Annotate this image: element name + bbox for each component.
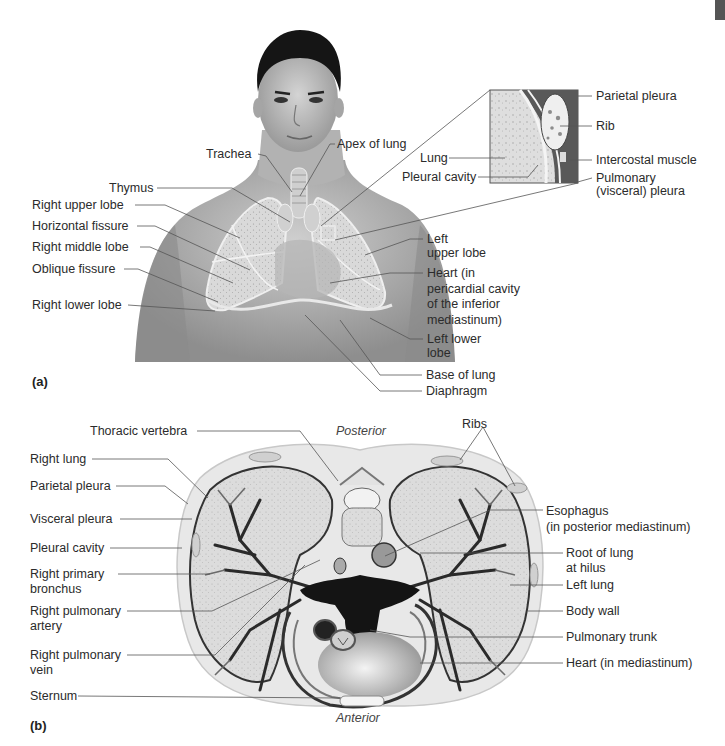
label-line: Right pulmonary: [30, 648, 121, 663]
label-line: Left lower: [427, 332, 481, 346]
label-inset-parietal-pleura: Parietal pleura: [596, 89, 677, 103]
label-line: lobe: [427, 346, 481, 360]
label-diaphragm: Diaphragm: [426, 384, 487, 398]
label-body-wall: Body wall: [566, 604, 620, 618]
label-ribs: Ribs: [462, 417, 487, 431]
label-line: Right pulmonary: [30, 604, 121, 619]
label-right-upper-lobe: Right upper lobe: [32, 198, 124, 212]
label-heart-mediastinum: Heart (in mediastinum): [566, 656, 692, 670]
label-oblique-fissure: Oblique fissure: [32, 262, 115, 276]
label-heart-pericardial: Heart (in pericardial cavity of the infe…: [427, 266, 520, 328]
label-sternum: Sternum: [30, 689, 77, 703]
label-line: (in posterior mediastinum): [546, 519, 691, 535]
label-line: Heart (in: [427, 266, 520, 282]
label-visceral-pleura: Visceral pleura: [30, 512, 112, 526]
label-apex-of-lung: Apex of lung: [337, 137, 407, 151]
orientation-posterior: Posterior: [336, 424, 386, 438]
label-line: vein: [30, 663, 121, 678]
label-line: of the inferior: [427, 297, 520, 313]
label-left-upper-lobe: Left upper lobe: [427, 232, 486, 260]
label-pleural-cavity: Pleural cavity: [30, 541, 104, 555]
label-line: Left: [427, 232, 486, 246]
label-left-lower-lobe: Left lower lobe: [427, 332, 481, 360]
label-root-of-lung: Root of lung at hilus: [566, 546, 633, 576]
label-line: artery: [30, 619, 121, 634]
label-right-lower-lobe: Right lower lobe: [32, 298, 122, 312]
label-thoracic-vertebra: Thoracic vertebra: [90, 424, 187, 438]
panel-b-tag: (b): [30, 718, 47, 733]
label-inset-lung: Lung: [420, 151, 448, 165]
label-left-lung: Left lung: [566, 578, 614, 592]
orientation-anterior: Anterior: [336, 711, 380, 725]
aorta-section: [372, 543, 396, 567]
label-right-middle-lobe: Right middle lobe: [32, 240, 129, 254]
label-line: Esophagus: [546, 503, 691, 519]
label-inset-pleural-cavity: Pleural cavity: [402, 170, 476, 184]
panel-a-tag: (a): [32, 374, 48, 389]
label-line: (visceral) pleura: [596, 185, 685, 198]
label-base-of-lung: Base of lung: [426, 368, 496, 382]
label-horizontal-fissure: Horizontal fissure: [32, 219, 129, 233]
label-thymus: Thymus: [109, 181, 153, 195]
label-right-lung: Right lung: [30, 452, 86, 466]
label-line: upper lobe: [427, 246, 486, 260]
label-inset-rib: Rib: [596, 119, 615, 133]
label-inset-intercostal-muscle: Intercostal muscle: [596, 153, 697, 167]
label-right-pulmonary-vein: Right pulmonary vein: [30, 648, 121, 678]
label-line: Root of lung: [566, 546, 633, 561]
label-inset-pulmonary-pleura: Pulmonary (visceral) pleura: [596, 172, 685, 197]
label-line: pericardial cavity: [427, 282, 520, 298]
label-right-pulmonary-artery: Right pulmonary artery: [30, 604, 121, 634]
label-right-primary-bronchus: Right primary bronchus: [30, 567, 104, 597]
label-line: mediastinum): [427, 313, 520, 329]
label-line: Pulmonary: [596, 172, 685, 185]
label-line: bronchus: [30, 582, 104, 597]
label-trachea: Trachea: [206, 147, 251, 161]
label-parietal-pleura: Parietal pleura: [30, 479, 111, 493]
label-line: at hilus: [566, 561, 633, 576]
label-line: Right primary: [30, 567, 104, 582]
label-pulmonary-trunk: Pulmonary trunk: [566, 630, 657, 644]
label-esophagus: Esophagus (in posterior mediastinum): [546, 503, 691, 535]
